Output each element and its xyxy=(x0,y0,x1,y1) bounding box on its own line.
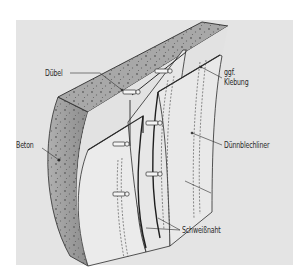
label-schweissnaht: Schweißnaht xyxy=(182,225,221,235)
label-klebung-line1: ggf. xyxy=(224,67,235,77)
liner-diagram: Dübel ggf. Klebung Beton Dünnblechliner … xyxy=(0,0,303,279)
label-duennblechliner: Dünnblechliner xyxy=(224,140,269,150)
label-duebel: Dübel xyxy=(45,68,63,78)
label-klebung-line2: Klebung xyxy=(224,77,248,87)
label-beton: Beton xyxy=(16,140,34,150)
